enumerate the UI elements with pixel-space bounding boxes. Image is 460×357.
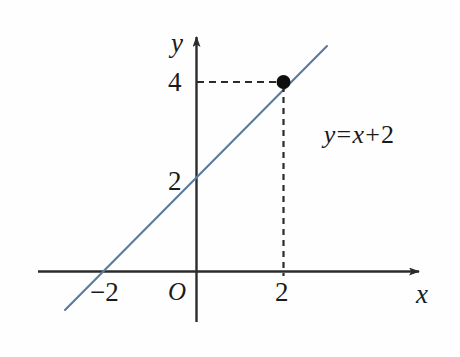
x-tick-label-minus-2: −2 [90,279,119,306]
graph-canvas [0,0,460,357]
y-tick-label-2: 2 [168,168,182,195]
equation-rhs-variable: x [352,120,364,149]
y-axis-label: y [171,30,183,57]
highlighted-point-marker [277,75,291,89]
x-axis-label: x [416,281,428,308]
origin-label: O [168,279,186,304]
equation-equals-sign: = [336,120,353,149]
equation-lhs: y [324,120,336,149]
y-tick-label-4: 4 [168,69,182,96]
equation-constant: 2 [381,120,394,149]
x-tick-label-2: 2 [275,279,289,306]
equation-plus-sign: + [364,120,381,149]
equation-label: y=x+2 [297,96,394,174]
line-graph-figure: y x 4 2 O −2 2 y=x+2 [0,0,460,357]
